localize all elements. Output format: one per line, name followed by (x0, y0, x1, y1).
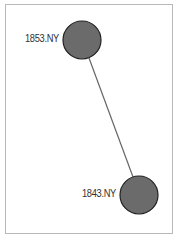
node-1843-NY[interactable] (120, 176, 158, 214)
node-1853-NY[interactable] (63, 21, 101, 59)
node-label-1843-NY: 1843.NY (82, 187, 116, 199)
node-label-1853-NY: 1853.NY (25, 32, 59, 44)
edge-1853-1843 (89, 58, 133, 177)
